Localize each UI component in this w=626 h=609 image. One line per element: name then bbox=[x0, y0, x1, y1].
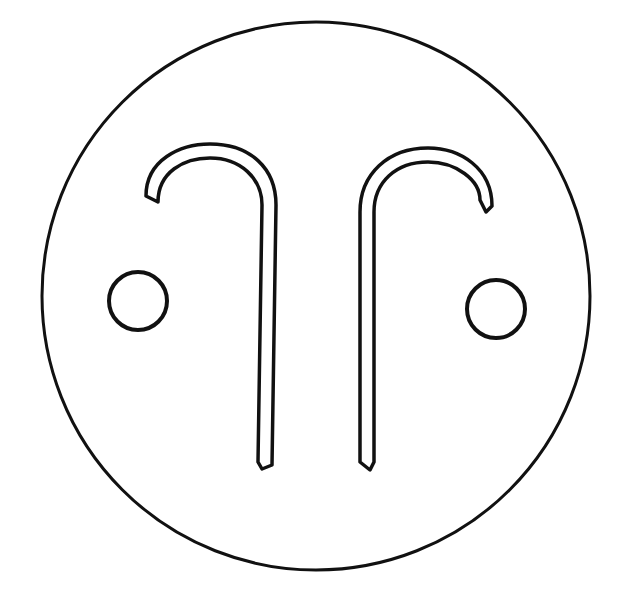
left-dot-icon bbox=[109, 272, 167, 330]
outer-circle bbox=[42, 22, 590, 570]
right-dot-icon bbox=[467, 280, 525, 338]
emblem-figure bbox=[0, 0, 626, 609]
right-hook-icon bbox=[360, 148, 492, 470]
emblem-svg bbox=[0, 0, 626, 609]
